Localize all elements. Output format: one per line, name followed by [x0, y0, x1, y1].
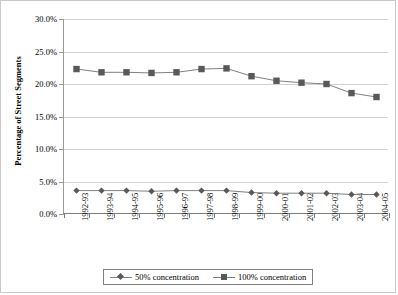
data-series [73, 187, 379, 197]
data-point [73, 66, 79, 72]
data-point [98, 187, 104, 193]
legend-label-50: 50% concentration [135, 272, 199, 282]
y-tick-label: 0.0% [39, 209, 57, 219]
y-tick-label: 25.0% [35, 47, 57, 57]
data-point [173, 187, 179, 193]
data-point [123, 69, 129, 75]
series-layer [64, 19, 389, 214]
data-point [348, 191, 354, 197]
data-point [223, 187, 229, 193]
legend-item-100[interactable]: 100% concentration [213, 272, 306, 282]
legend-label-100: 100% concentration [238, 272, 306, 282]
data-point [273, 190, 279, 196]
data-point [248, 73, 254, 79]
data-point [348, 90, 354, 96]
data-point [248, 189, 254, 195]
data-point [198, 66, 204, 72]
data-point [123, 187, 129, 193]
y-tick-label: 10.0% [35, 144, 57, 154]
data-point [148, 70, 154, 76]
data-point [273, 78, 279, 84]
data-point [373, 94, 379, 100]
data-point [373, 191, 379, 197]
chart-legend: 50% concentration 100% concentration [103, 269, 313, 285]
y-tick-label: 30.0% [35, 14, 57, 24]
y-tick-label: 20.0% [35, 79, 57, 89]
y-axis-title: Percentage of Street Segments [13, 21, 23, 201]
data-point [148, 188, 154, 194]
data-series [73, 65, 379, 100]
diamond-marker-icon [110, 273, 132, 282]
plot-area: 0.0%5.0%10.0%15.0%20.0%25.0%30.0% 1992-9… [63, 19, 388, 214]
data-point [173, 69, 179, 75]
data-point [323, 190, 329, 196]
data-point [73, 187, 79, 193]
legend-item-50[interactable]: 50% concentration [110, 272, 199, 282]
data-point [298, 80, 304, 86]
y-tick-label: 5.0% [39, 177, 57, 187]
data-point [298, 190, 304, 196]
data-point [198, 187, 204, 193]
chart-container: Percentage of Street Segments 0.0%5.0%10… [0, 0, 396, 293]
data-point [223, 65, 229, 71]
y-tick-label: 15.0% [35, 112, 57, 122]
data-point [98, 69, 104, 75]
square-marker-icon [213, 273, 235, 282]
data-point [323, 81, 329, 87]
